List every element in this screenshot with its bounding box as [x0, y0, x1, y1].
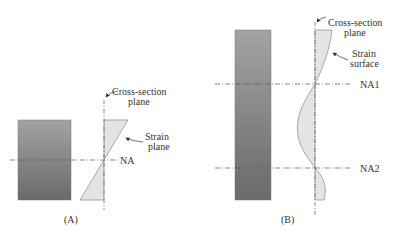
panel-a: NA Cross-section plane Strain plane (A): [10, 86, 170, 226]
strain-arrow-a: [126, 138, 143, 142]
neutral-axis-label-a: NA: [120, 155, 135, 166]
strain-label-b-line2: surface: [350, 58, 379, 69]
neutral-axis-label-b2: NA2: [360, 163, 379, 174]
caption-b: (B): [281, 214, 294, 226]
beam-cross-section-b: [235, 30, 271, 200]
cross-section-label-a-line2: plane: [128, 96, 150, 107]
neutral-axis-label-b1: NA1: [360, 79, 379, 90]
diagram-canvas: NA Cross-section plane Strain plane (A) …: [0, 0, 395, 239]
cross-section-arrow-b: [317, 17, 326, 22]
strain-label-a-line2: plane: [148, 141, 170, 152]
caption-a: (A): [64, 214, 78, 226]
strain-arrow-b: [333, 53, 348, 60]
cross-section-label-b-line2: plane: [344, 27, 366, 38]
panel-b: NA1 NA2 Cross-section plane Strain surfa…: [215, 17, 382, 226]
